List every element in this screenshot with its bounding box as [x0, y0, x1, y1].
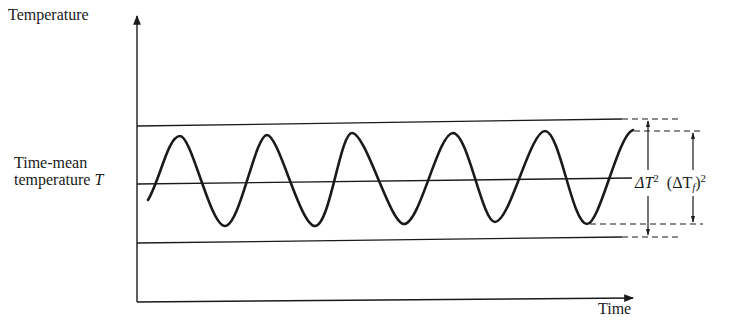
- x-axis: [137, 298, 633, 302]
- delta-tf-label: (ΔTf)2: [667, 174, 706, 191]
- diagram-canvas: [0, 0, 732, 325]
- mean-label-line2: temperature T: [14, 171, 103, 188]
- y-axis-label: Temperature: [8, 6, 89, 23]
- lower-bound-line: [137, 237, 622, 243]
- temperature-wave: [148, 130, 633, 226]
- delta-t-label: ΔT2: [635, 174, 659, 191]
- mean-label-line1: Time-mean: [14, 154, 103, 171]
- mean-label: Time-mean temperature T: [14, 154, 103, 188]
- x-axis-label: Time: [598, 300, 631, 317]
- range-labels: ΔT2 (ΔTf)2: [634, 170, 707, 196]
- mean-line: [137, 178, 632, 184]
- upper-bound-line: [137, 119, 622, 126]
- mean-symbol: T: [94, 171, 103, 188]
